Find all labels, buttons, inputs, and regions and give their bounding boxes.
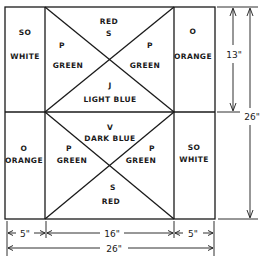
bottom-center-top-code: V: [107, 123, 113, 132]
dim-total-height: 26": [244, 112, 260, 122]
top-center-right-code: P: [147, 41, 153, 50]
bottom-center-top-color: DARK BLUE: [84, 134, 135, 143]
bottom-center-left-color: GREEN: [57, 156, 87, 165]
bottom-right-color: WHITE: [179, 155, 209, 164]
bottom-center-left-code: P: [66, 144, 72, 153]
bottom-center-bottom-code: S: [110, 183, 116, 192]
top-left-code: SO: [19, 28, 32, 37]
bottom-left-color: ORANGE: [5, 156, 43, 165]
dim-right-width: 5": [188, 229, 198, 239]
bottom-left-code: O: [21, 144, 28, 153]
top-center-bottom-color: LIGHT BLUE: [83, 95, 136, 104]
top-center-right-color: GREEN: [130, 61, 160, 70]
bottom-center-bottom-color: RED: [102, 197, 120, 206]
top-right-code: O: [190, 27, 197, 36]
bottom-right-code: SO: [188, 143, 201, 152]
flag-diagram: SO WHITE O ORANGE RED S P GREEN P GREEN …: [0, 0, 264, 261]
dim-center-width: 16": [104, 229, 120, 239]
dim-half-height: 13": [226, 50, 242, 60]
top-center-bottom-code: J: [107, 81, 111, 90]
top-center-top-code: S: [106, 29, 112, 38]
dim-total-width: 26": [106, 244, 122, 254]
dim-left-width: 5": [20, 229, 30, 239]
top-center-left-color: GREEN: [53, 61, 83, 70]
bottom-center-right-color: GREEN: [126, 156, 156, 165]
top-right-color: ORANGE: [174, 52, 212, 61]
top-center-top-color: RED: [100, 17, 118, 26]
top-left-color: WHITE: [10, 52, 40, 61]
bottom-center-right-code: P: [149, 144, 155, 153]
top-center-left-code: P: [59, 41, 65, 50]
